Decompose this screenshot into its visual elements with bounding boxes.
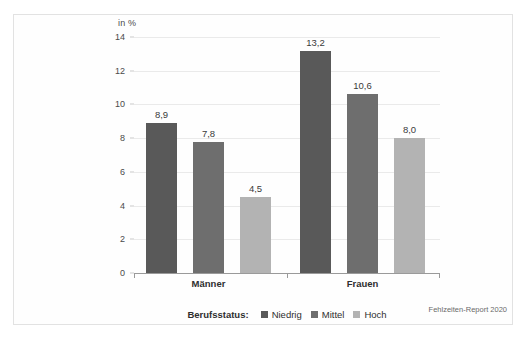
y-tick-mark: [130, 205, 134, 206]
x-tick-mark: [134, 273, 135, 278]
bar: 7,8: [193, 142, 224, 273]
legend-item[interactable]: Niedrig: [261, 309, 302, 320]
bar-value-label: 4,5: [249, 183, 262, 194]
x-axis-group-label: Männer: [192, 278, 226, 289]
y-tick-mark: [130, 138, 134, 139]
gridline: [134, 104, 440, 105]
y-tick-mark: [130, 104, 134, 105]
y-tick-label: 10: [115, 99, 125, 109]
y-tick-label: 6: [120, 167, 125, 177]
y-tick-label: 12: [115, 66, 125, 76]
y-axis-unit-label: in %: [118, 18, 136, 28]
bar: 4,5: [240, 197, 271, 273]
y-tick-mark: [130, 239, 134, 240]
bar-value-label: 7,8: [202, 128, 215, 139]
y-tick-label: 8: [120, 133, 125, 143]
bar: 13,2: [300, 51, 331, 274]
legend-item[interactable]: Hoch: [353, 309, 386, 320]
bar-value-label: 10,6: [353, 80, 372, 91]
bar: 8,0: [394, 138, 425, 273]
bar-value-label: 8,9: [155, 109, 168, 120]
legend-item[interactable]: Mittel: [311, 309, 345, 320]
y-tick-mark: [130, 171, 134, 172]
y-tick-label: 14: [115, 32, 125, 42]
chart-legend: Berufsstatus: NiedrigMittelHoch: [134, 309, 440, 320]
x-tick-mark: [439, 273, 440, 278]
bar-value-label: 8,0: [403, 124, 416, 135]
y-tick-label: 2: [120, 234, 125, 244]
legend-swatch: [311, 311, 318, 318]
gridline: [134, 37, 440, 38]
plot-area: 02468101214 8,97,84,513,210,68,0 MännerF…: [134, 37, 440, 273]
y-tick-mark: [130, 70, 134, 71]
y-tick-mark: [130, 37, 134, 38]
bar: 10,6: [347, 94, 378, 273]
legend-items: NiedrigMittelHoch: [261, 309, 387, 320]
x-tick-mark: [287, 273, 288, 278]
legend-swatch: [261, 311, 268, 318]
chart-figure: in % 02468101214 8,97,84,513,210,68,0 Mä…: [0, 0, 527, 339]
source-note: Fehlzeiten-Report 2020: [429, 305, 507, 314]
bar: 8,9: [146, 123, 177, 273]
x-axis-group-label: Frauen: [347, 278, 379, 289]
legend-label: Hoch: [364, 309, 386, 320]
y-tick-label: 4: [120, 201, 125, 211]
gridline: [134, 71, 440, 72]
bar-value-label: 13,2: [306, 37, 325, 48]
legend-label: Mittel: [322, 309, 345, 320]
legend-title: Berufsstatus:: [187, 309, 248, 320]
legend-label: Niedrig: [272, 309, 302, 320]
legend-swatch: [353, 311, 360, 318]
y-tick-label: 0: [120, 268, 125, 278]
